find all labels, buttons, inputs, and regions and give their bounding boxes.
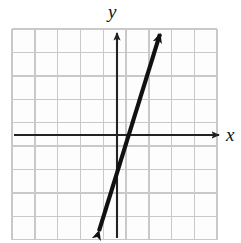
graph-figure: y x [0,0,241,243]
y-axis-label: y [108,2,116,21]
coordinate-plane [0,0,241,243]
x-axis-label: x [226,125,234,144]
